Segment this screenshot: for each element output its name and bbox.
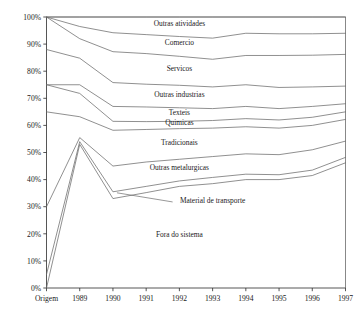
series-label: Fora do sistema	[156, 230, 204, 239]
y-axis-tick-label: 60%	[27, 121, 42, 130]
x-axis-tick-label: 1996	[305, 294, 320, 303]
y-axis-tick-label: 50%	[27, 148, 42, 157]
y-axis-tick-label: 80%	[27, 67, 42, 76]
y-axis-tick-label: 100%	[23, 13, 41, 22]
x-axis-ticks	[47, 288, 346, 291]
x-axis-tick-label: 1997	[338, 294, 353, 303]
y-axis-ticks	[43, 17, 46, 288]
series-lines	[47, 17, 346, 288]
x-axis-tick-label: 1992	[172, 294, 187, 303]
y-axis-tick-label: 30%	[27, 202, 42, 211]
leader-line	[117, 193, 173, 202]
y-axis-tick-label: 90%	[27, 40, 42, 49]
series-label: Texteis	[169, 108, 190, 117]
series-label: Outras metalurgicas	[150, 163, 209, 172]
series-label: Comercio	[165, 38, 194, 47]
x-axis-tick-label: 1995	[271, 294, 286, 303]
chart-canvas: 0%10%20%30%40%50%60%70%80%90%100% Origem…	[0, 0, 363, 318]
y-axis-tick-labels: 0%10%20%30%40%50%60%70%80%90%100%	[23, 13, 41, 293]
stacked-percentage-line-chart: 0%10%20%30%40%50%60%70%80%90%100% Origem…	[0, 0, 363, 318]
x-axis-tick-label: 1989	[72, 294, 87, 303]
series-label: Quimicas	[165, 118, 193, 127]
x-axis-tick-label: 1990	[105, 294, 120, 303]
x-axis-tick-label: 1993	[205, 294, 220, 303]
x-axis-tick-label: Origem	[35, 294, 58, 303]
y-axis-tick-label: 40%	[27, 175, 42, 184]
y-axis-tick-label: 10%	[27, 257, 42, 266]
series-label: Material de transporte	[180, 196, 246, 205]
x-axis-tick-label: 1994	[238, 294, 253, 303]
x-axis-tick-labels: Origem1989199019911992199319941995199619…	[35, 294, 353, 303]
annotation-leader-lines	[117, 193, 173, 202]
series-label: Outras atividades	[154, 19, 206, 28]
series-line	[47, 142, 346, 275]
series-label: Servicos	[167, 64, 193, 73]
series-label: Outras industrias	[154, 90, 204, 99]
y-axis-tick-label: 0%	[31, 284, 42, 293]
x-axis-tick-label: 1991	[139, 294, 154, 303]
y-axis-tick-label: 70%	[27, 94, 42, 103]
y-axis-tick-label: 20%	[27, 230, 42, 239]
series-label: Tradicionais	[161, 138, 198, 147]
